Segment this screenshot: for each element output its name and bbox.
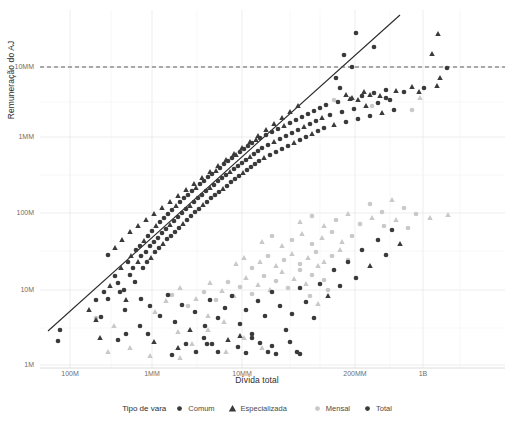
data-point-circle <box>322 278 327 283</box>
data-point-circle <box>202 290 207 295</box>
data-point-circle <box>358 222 363 227</box>
scatter-chart: Remuneração do AJ Dívida total 10MM1MM10… <box>0 0 514 433</box>
chart-legend: Tipo de vara ComumEspecializada MensalTo… <box>0 404 514 413</box>
y-tick-label: 1M <box>0 361 34 368</box>
data-point-circle <box>99 315 104 320</box>
data-point-circle <box>244 308 249 313</box>
data-point-circle <box>312 316 317 321</box>
data-point-circle <box>445 66 450 71</box>
data-point-circle <box>210 342 215 347</box>
legend-item-label: Total <box>376 404 392 413</box>
legend-circle-icon <box>313 404 322 413</box>
data-point-circle <box>250 266 255 271</box>
data-point-circle <box>250 292 255 297</box>
data-point-circle <box>330 230 335 235</box>
data-point-circle <box>249 165 254 170</box>
data-point-circle <box>310 273 315 278</box>
y-axis-title: Remuneração do AJ <box>6 20 16 140</box>
data-point-circle <box>230 156 235 161</box>
data-point-circle <box>372 45 377 50</box>
data-point-circle <box>193 310 198 315</box>
data-point-circle <box>118 290 123 295</box>
data-point-circle <box>94 298 99 303</box>
data-point-circle <box>157 246 162 251</box>
x-tick-label: 1MM <box>122 370 182 377</box>
data-point-circle <box>422 86 427 91</box>
data-point-circle <box>316 129 321 134</box>
data-point-circle <box>202 336 207 341</box>
data-point-circle <box>260 146 265 151</box>
data-point-circle <box>360 94 365 99</box>
data-point-circle <box>410 108 415 113</box>
data-point-circle <box>268 153 273 158</box>
data-point-circle <box>133 280 138 285</box>
data-point-circle <box>148 244 153 249</box>
data-point-circle <box>224 173 229 178</box>
data-point-circle <box>290 312 295 317</box>
data-point-circle <box>402 206 407 211</box>
data-point-circle <box>236 345 241 350</box>
data-point-circle <box>170 353 175 358</box>
data-point-circle <box>141 266 146 271</box>
data-point-circle <box>278 137 283 142</box>
data-point-circle <box>113 274 118 279</box>
data-point-circle <box>406 226 411 231</box>
data-point-circle <box>294 118 299 123</box>
data-point-circle <box>186 304 191 309</box>
data-point-circle <box>213 193 218 198</box>
data-point-circle <box>304 300 309 305</box>
data-point-circle <box>106 253 111 258</box>
data-point-circle <box>233 177 238 182</box>
data-point-circle <box>344 120 349 125</box>
data-point-circle <box>223 306 228 311</box>
data-point-circle <box>354 31 359 36</box>
data-point-circle <box>229 180 234 185</box>
data-point-circle <box>197 207 202 212</box>
legend-item-total[interactable]: Total <box>363 404 392 413</box>
data-point-circle <box>102 290 107 295</box>
data-point-circle <box>286 286 291 291</box>
legend-item-especializada[interactable]: Especializada <box>228 404 287 413</box>
y-tick-label: 1MM <box>0 133 34 140</box>
data-point-circle <box>58 328 63 333</box>
data-point-circle <box>250 336 255 341</box>
data-point-circle <box>144 250 149 255</box>
data-point-circle <box>310 214 315 219</box>
plot-panel-background <box>40 10 500 368</box>
data-point-circle <box>150 229 155 234</box>
data-point-circle <box>264 133 269 138</box>
data-point-circle <box>237 174 242 179</box>
data-point-circle <box>126 260 131 265</box>
data-point-circle <box>203 324 208 329</box>
data-point-circle <box>169 234 174 239</box>
data-point-circle <box>388 98 393 103</box>
data-point-circle <box>186 193 191 198</box>
data-point-circle <box>170 208 175 213</box>
legend-circle-icon <box>363 404 372 413</box>
data-point-circle <box>298 262 303 267</box>
data-point-circle <box>334 76 339 81</box>
data-point-circle <box>156 236 161 241</box>
data-point-circle <box>226 280 231 285</box>
legend-item-label: Mensal <box>326 404 350 413</box>
data-point-circle <box>332 98 337 103</box>
data-point-circle <box>274 150 279 155</box>
data-point-circle <box>205 200 210 205</box>
data-point-circle <box>238 150 243 155</box>
data-point-circle <box>173 320 178 325</box>
data-point-circle <box>116 338 121 343</box>
data-point-circle <box>290 131 295 136</box>
data-point-circle <box>256 299 261 304</box>
data-point-circle <box>308 122 313 127</box>
legend-item-comum[interactable]: Comum <box>175 404 214 413</box>
data-point-circle <box>336 100 341 105</box>
data-point-circle <box>322 126 327 131</box>
data-point-circle <box>238 285 243 290</box>
data-point-circle <box>350 234 355 239</box>
data-point-circle <box>384 88 389 93</box>
data-point-circle <box>276 127 281 132</box>
data-point-circle <box>298 138 303 143</box>
legend-item-mensal[interactable]: Mensal <box>313 404 350 413</box>
plot-canvas <box>0 0 514 433</box>
data-point-circle <box>372 91 377 96</box>
